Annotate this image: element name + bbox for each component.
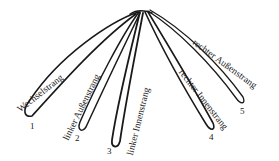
strand-2: [79, 12, 140, 130]
strand-2-number: 2: [75, 134, 80, 143]
strand-3-number: 3: [107, 147, 112, 156]
strand-5-number: 5: [240, 107, 245, 116]
strand-4-number: 4: [209, 133, 214, 142]
strand-1-number: 1: [30, 122, 35, 131]
